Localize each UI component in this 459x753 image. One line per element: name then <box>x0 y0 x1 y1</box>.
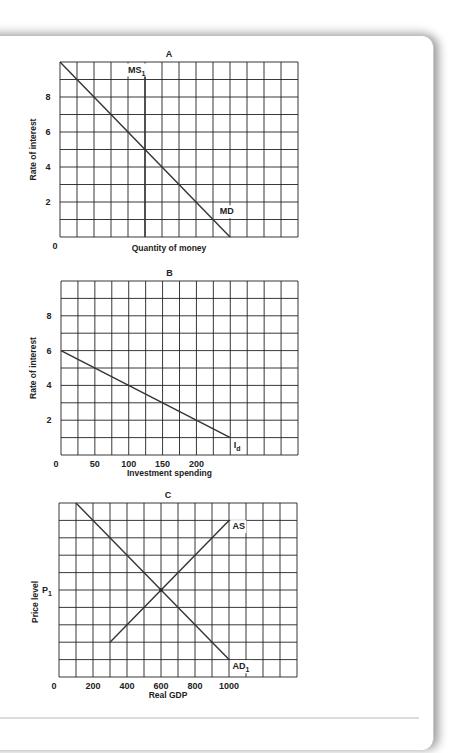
y-tick-label: 4 <box>45 162 50 172</box>
y-tick-label: 4 <box>46 380 51 390</box>
chart-c: CAD1ASP102004006008001000Real GDPPrice l… <box>30 490 297 700</box>
grid <box>59 503 297 677</box>
y-axis-label: Rate of interest <box>28 118 38 180</box>
x-tick-label: 400 <box>119 681 134 691</box>
y-tick-label: 2 <box>46 415 51 425</box>
equilibrium-point <box>159 588 163 592</box>
y-tick-label: 8 <box>46 311 51 321</box>
chart-a: AMDMS124680Quantity of moneyRate of inte… <box>28 49 298 253</box>
curve-label-as: AS <box>232 521 245 531</box>
y-tick-label: 2 <box>45 197 50 207</box>
chart-title: C <box>165 490 172 500</box>
grid <box>61 281 298 455</box>
x-tick-label: 200 <box>85 681 100 691</box>
x-tick-label: 1000 <box>219 681 239 691</box>
y-tick-label: 8 <box>45 92 50 102</box>
x-tick-label: 0 <box>53 459 58 469</box>
x-axis-label: Quantity of money <box>132 243 207 253</box>
chart-title: B <box>166 268 173 278</box>
charts-canvas: AMDMS124680Quantity of moneyRate of inte… <box>0 0 459 753</box>
curve-label-md: MD <box>220 206 234 216</box>
grid <box>60 62 298 237</box>
y-axis-label: Price level <box>30 581 40 623</box>
y-tick-label: 6 <box>46 346 51 356</box>
y-axis-label: Rate of interest <box>28 337 38 399</box>
x-tick-label: 50 <box>90 459 100 469</box>
y-tick-label: P1 <box>42 585 52 597</box>
x-tick-label: 0 <box>52 241 57 251</box>
x-tick-label: 800 <box>187 681 202 691</box>
x-tick-label: 0 <box>51 681 56 691</box>
curve-as <box>110 520 229 642</box>
chart-title: A <box>166 49 173 59</box>
chart-b: BId2468050100150200Investment spendingRa… <box>28 268 298 478</box>
y-tick-label: 6 <box>45 127 50 137</box>
curve-ad1 <box>76 503 229 660</box>
x-axis-label: Real GDP <box>149 690 188 700</box>
x-axis-label: Investment spending <box>127 468 212 478</box>
